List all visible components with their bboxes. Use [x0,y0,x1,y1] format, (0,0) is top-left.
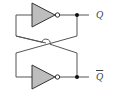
q-label: Q [96,10,103,20]
bottom-inverter-gate [32,65,55,89]
top-inverter-bubble [55,13,59,17]
circuit-canvas [0,0,126,95]
top-inverter-gate [32,3,55,27]
q-bar-label: Q [96,72,103,82]
bottom-inverter-bubble [55,75,59,79]
crossover-wire [16,36,77,77]
q-junction-dot [75,13,79,17]
latch-diagram: Q Q [0,0,126,95]
q-bar-junction-dot [75,75,79,79]
q-feedback-wire [16,15,77,77]
